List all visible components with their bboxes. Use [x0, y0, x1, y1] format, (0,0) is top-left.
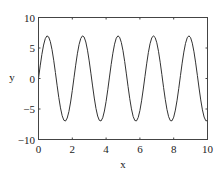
x-tick-label: 6 [137, 143, 143, 155]
y-tick-label: 0 [30, 73, 36, 85]
y-tick-labels: 10 5 0 −5 −10 [18, 12, 36, 146]
axis-ticks [39, 18, 208, 140]
x-axis-label: x [120, 158, 126, 170]
y-axis-label: y [9, 71, 15, 83]
axes-box [39, 18, 208, 140]
data-line [39, 36, 208, 121]
line-chart: 0 2 4 6 8 10 10 5 0 −5 −10 x y [0, 0, 222, 180]
x-tick-label: 2 [70, 143, 76, 155]
y-tick-label: 10 [24, 12, 36, 24]
x-tick-label: 0 [36, 143, 42, 155]
x-tick-label: 4 [103, 143, 109, 155]
y-tick-label: −5 [23, 103, 35, 115]
y-tick-label: 5 [30, 42, 36, 54]
x-tick-label: 8 [171, 143, 177, 155]
y-tick-label: −10 [18, 134, 36, 146]
x-tick-label: 10 [202, 143, 214, 155]
x-tick-labels: 0 2 4 6 8 10 [36, 143, 214, 155]
sine-curve [39, 36, 208, 121]
